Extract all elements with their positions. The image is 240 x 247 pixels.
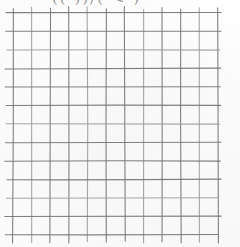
grid-line (7, 179, 221, 180)
grid-line (50, 8, 51, 243)
grid-sheet-page: (( ))/( < ) (0, 0, 240, 247)
grid-line (5, 68, 221, 69)
grid-lines (0, 0, 240, 247)
grid-line (13, 9, 14, 243)
grid-line (181, 9, 182, 243)
grid-line (218, 8, 219, 243)
